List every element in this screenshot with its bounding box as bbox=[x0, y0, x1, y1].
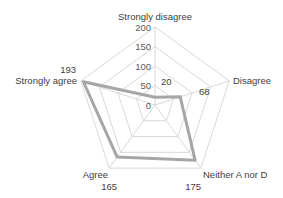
axis-tick-label: 150 bbox=[135, 41, 151, 52]
radar-chart: 050100150200 Strongly disagreeDisagreeNe… bbox=[0, 0, 283, 198]
category-label: Strongly agree bbox=[15, 75, 77, 86]
category-label: Neither A nor D bbox=[203, 169, 268, 180]
data-series bbox=[83, 82, 195, 160]
axis-tick-label: 100 bbox=[135, 61, 151, 72]
category-label: Disagree bbox=[233, 75, 271, 86]
data-value-label: 20 bbox=[161, 76, 172, 87]
data-value-label: 68 bbox=[199, 86, 210, 97]
axis-tick-label: 0 bbox=[146, 100, 151, 111]
data-value-label: 175 bbox=[185, 181, 201, 192]
axis-tick-label: 200 bbox=[135, 22, 151, 33]
series-line bbox=[83, 82, 195, 160]
data-value-label: 193 bbox=[60, 64, 76, 75]
data-value-label: 165 bbox=[101, 181, 117, 192]
axis-tick-label: 50 bbox=[140, 80, 151, 91]
category-label: Agree bbox=[83, 169, 108, 180]
category-label: Strongly disagree bbox=[118, 11, 192, 22]
